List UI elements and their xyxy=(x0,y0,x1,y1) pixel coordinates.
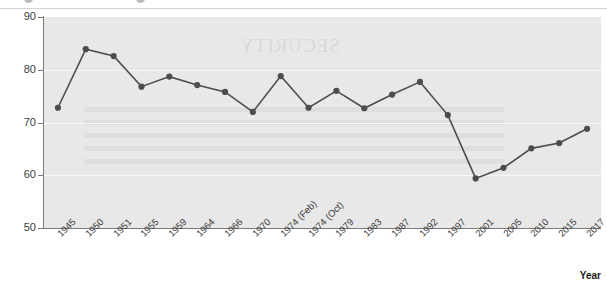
data-point-1983[interactable] xyxy=(361,105,367,111)
data-point-2017[interactable] xyxy=(584,126,590,132)
data-point-1959[interactable] xyxy=(166,74,172,80)
data-point-2001[interactable] xyxy=(473,175,479,181)
y-tick-mark-50 xyxy=(38,228,43,229)
data-point-1955[interactable] xyxy=(138,84,144,90)
top-strip xyxy=(0,0,607,13)
y-tick-mark-80 xyxy=(38,70,43,71)
data-point-1992[interactable] xyxy=(417,79,423,85)
x-axis-title: Year xyxy=(580,270,601,281)
data-point-1951[interactable] xyxy=(111,53,117,59)
plot-area: SECURITY xyxy=(44,17,601,228)
data-point-1974-feb-[interactable] xyxy=(278,73,284,79)
y-tick-mark-90 xyxy=(38,17,43,18)
data-point-1970[interactable] xyxy=(250,109,256,115)
bullet-icon-two xyxy=(134,0,147,5)
series-line xyxy=(58,49,587,178)
data-point-1987[interactable] xyxy=(389,91,395,97)
data-point-1974-oct-[interactable] xyxy=(305,105,311,111)
y-tick-mark-60 xyxy=(38,175,43,176)
header-divider xyxy=(0,8,607,9)
data-point-1966[interactable] xyxy=(222,89,228,95)
y-tick-label-60: 60 xyxy=(10,169,36,180)
y-axis-title-host: Turnout (%) xyxy=(14,20,28,120)
data-point-2005[interactable] xyxy=(500,165,506,171)
data-point-1945[interactable] xyxy=(55,105,61,111)
data-point-1950[interactable] xyxy=(83,46,89,52)
data-point-1964[interactable] xyxy=(194,82,200,88)
chart-screenshot: SECURITY 5060708090 19451950195119551959… xyxy=(0,0,607,286)
y-tick-label-50: 50 xyxy=(10,222,36,233)
y-tick-mark-70 xyxy=(38,123,43,124)
data-point-1997[interactable] xyxy=(445,112,451,118)
data-point-2015[interactable] xyxy=(556,140,562,146)
bullet-icon-one xyxy=(22,0,35,5)
turnout-line-series xyxy=(44,17,601,228)
data-point-1979[interactable] xyxy=(333,88,339,94)
data-point-2010[interactable] xyxy=(528,145,534,151)
y-axis-line xyxy=(43,16,44,229)
